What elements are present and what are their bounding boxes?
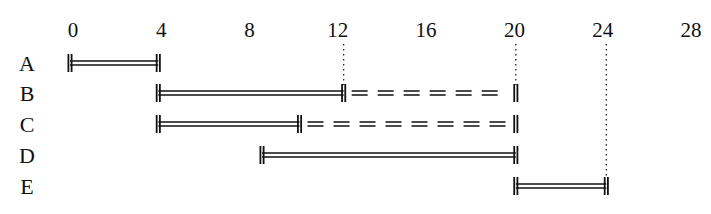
task-bar-e: [514, 177, 608, 195]
tick-label: 12: [327, 18, 348, 42]
tick-label: 4: [156, 18, 167, 42]
tick-label: 24: [592, 18, 614, 42]
slack-bar-b: [352, 84, 518, 102]
row-labels: ABCDE: [19, 51, 35, 199]
tick-label: 16: [416, 18, 437, 42]
gantt-chart: 0481216202428 ABCDE: [0, 0, 711, 214]
task-bar-d: [260, 146, 517, 164]
task-bar-a: [68, 54, 159, 72]
row-label-d: D: [19, 143, 35, 168]
tick-label: 20: [504, 18, 525, 42]
reference-lines: [344, 44, 607, 178]
row-label-b: B: [20, 81, 35, 106]
tick-label: 0: [68, 18, 79, 42]
task-bar-c: [157, 115, 518, 133]
x-axis-ticks: 0481216202428: [68, 18, 702, 42]
row-label-e: E: [20, 174, 33, 199]
slack-bar-c: [308, 115, 518, 133]
task-bar-b: [157, 84, 518, 102]
row-label-c: C: [20, 112, 35, 137]
tick-label: 8: [244, 18, 255, 42]
task-bars: [68, 54, 608, 195]
tick-label: 28: [680, 18, 701, 42]
row-label-a: A: [19, 51, 35, 76]
